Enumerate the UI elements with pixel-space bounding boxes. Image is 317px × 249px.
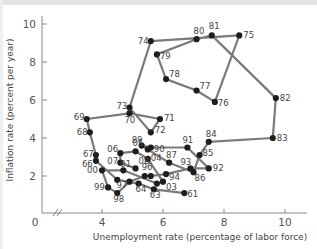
point-label-73: 73	[116, 101, 127, 111]
point-label-04: 04	[151, 153, 162, 163]
point-label-72: 72	[155, 125, 166, 135]
y-tick-label: 8	[29, 56, 36, 68]
point-label-98: 98	[113, 194, 124, 204]
point-label-93: 93	[180, 157, 191, 167]
point-label-85: 85	[203, 148, 214, 158]
point-label-61: 61	[187, 189, 198, 199]
point-label-83: 83	[277, 133, 288, 143]
point-label-64: 64	[136, 184, 147, 194]
data-point-02	[154, 181, 160, 187]
x-tick-label: 0	[32, 216, 39, 228]
point-label-81: 81	[209, 21, 220, 31]
data-point-81	[209, 32, 215, 38]
point-label-68: 68	[77, 127, 88, 137]
data-point-05	[132, 148, 138, 154]
phillips-curve-plot: 046810246810 616364666768697071727374757…	[0, 0, 317, 249]
point-label-76: 76	[218, 98, 229, 108]
y-tick-label: 4	[29, 132, 36, 144]
point-labels: 6163646667686970717273747576777879808182…	[74, 21, 291, 204]
y-axis-title: Inflation rate (percent per year)	[5, 38, 15, 181]
point-label-97: 97	[116, 180, 127, 190]
chart-figure: 046810246810 616364666768697071727374757…	[0, 0, 317, 249]
point-label-05: 05	[133, 138, 144, 148]
data-point-00	[99, 167, 105, 173]
data-point-87	[166, 160, 172, 166]
trajectory-line	[87, 35, 276, 193]
y-tick-label: 2	[29, 170, 36, 182]
data-point-95	[148, 173, 154, 179]
data-point-82	[273, 95, 279, 101]
point-label-71: 71	[164, 113, 175, 123]
point-label-69: 69	[74, 112, 85, 122]
data-point-99	[105, 184, 111, 190]
x-tick-label: 6	[160, 216, 167, 228]
x-axis-title: Unemployment rate (percentage of labor f…	[93, 232, 307, 242]
data-point-71	[157, 116, 163, 122]
data-point-92	[206, 165, 212, 171]
point-label-80: 80	[194, 26, 205, 36]
point-label-08: 08	[139, 156, 150, 166]
point-label-77: 77	[200, 81, 211, 91]
point-label-99: 99	[94, 182, 105, 192]
data-point-80	[193, 36, 199, 42]
y-tick-label: 6	[29, 94, 36, 106]
point-label-01: 01	[120, 159, 131, 169]
point-label-94: 94	[169, 172, 180, 182]
point-label-75: 75	[243, 30, 254, 40]
point-label-91: 91	[182, 135, 193, 145]
point-label-70: 70	[124, 115, 135, 125]
point-label-78: 78	[169, 69, 180, 79]
x-tick-label: 8	[221, 216, 228, 228]
point-label-92: 92	[213, 163, 224, 173]
point-label-86: 86	[195, 173, 206, 183]
data-point-75	[236, 32, 242, 38]
data-line	[87, 35, 276, 193]
data-point-91	[184, 144, 190, 150]
point-label-67: 67	[83, 149, 94, 159]
data-point-84	[206, 139, 212, 145]
point-label-87: 87	[166, 150, 177, 160]
data-point-96	[142, 173, 148, 179]
point-label-00: 00	[87, 165, 98, 175]
point-label-03: 03	[166, 182, 177, 192]
point-label-07: 07	[107, 156, 118, 166]
data-point-83	[270, 135, 276, 141]
x-tick-label: 4	[99, 216, 106, 228]
point-label-63: 63	[150, 190, 161, 200]
point-label-79: 79	[160, 51, 171, 61]
point-label-84: 84	[206, 129, 217, 139]
y-tick-label: 10	[23, 18, 36, 30]
point-label-82: 82	[280, 93, 291, 103]
point-label-06: 06	[107, 144, 118, 154]
data-point-69	[84, 116, 90, 122]
x-tick-label: 10	[278, 216, 291, 228]
point-label-74: 74	[138, 36, 149, 46]
data-point-72	[148, 129, 154, 135]
